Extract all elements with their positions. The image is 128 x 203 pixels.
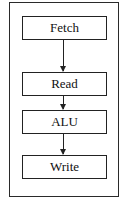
stage-label: Fetch xyxy=(50,20,79,36)
stage-label: ALU xyxy=(51,114,78,130)
stage-write: Write xyxy=(22,155,107,179)
arrow-fetch-to-read xyxy=(63,40,64,71)
stage-fetch: Fetch xyxy=(22,16,107,40)
arrow-alu-to-write xyxy=(63,134,64,154)
stage-label: Write xyxy=(50,159,79,175)
stage-read: Read xyxy=(22,72,107,96)
stage-alu: ALU xyxy=(22,110,107,134)
stage-label: Read xyxy=(51,76,78,92)
arrow-read-to-alu xyxy=(63,96,64,109)
